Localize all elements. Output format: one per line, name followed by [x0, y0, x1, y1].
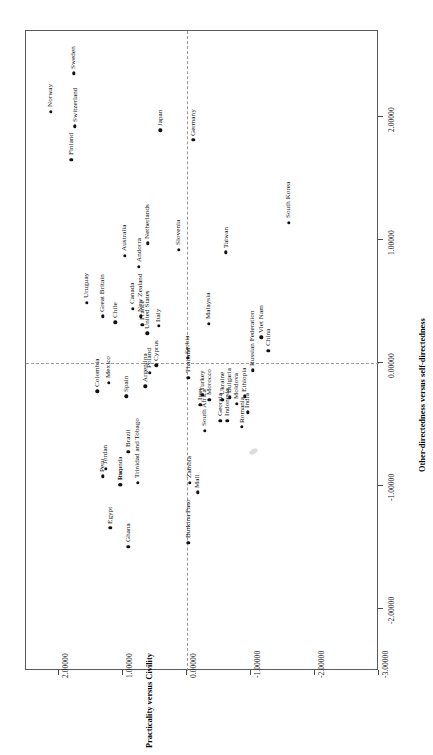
data-point-label: Brazil	[125, 430, 132, 448]
data-point	[126, 545, 129, 548]
data-point	[119, 483, 122, 486]
data-point-label: Netherlands	[144, 204, 151, 239]
y-axis-tick	[378, 116, 383, 117]
data-point-label: United States	[144, 290, 151, 329]
y-axis-tick-label: 1.00000	[387, 230, 396, 255]
reference-line-y-zero	[26, 363, 379, 364]
data-point-label: Mexico	[105, 356, 112, 378]
x-axis-tick	[314, 670, 315, 675]
data-point-label: Burkina Faso	[185, 500, 192, 539]
data-point-label: Uruguay	[83, 273, 90, 298]
data-point	[72, 72, 75, 75]
data-point-label: Germany	[190, 109, 197, 136]
data-point-label: Jordan	[102, 445, 109, 464]
x-axis-tick-label: 0.00000	[189, 653, 198, 678]
data-point	[224, 250, 227, 253]
y-axis-tick-label: -1.00000	[387, 474, 396, 501]
data-point-label: Finland	[68, 133, 75, 155]
x-axis-tick	[378, 670, 379, 675]
data-point	[104, 467, 107, 470]
data-point	[177, 248, 180, 251]
data-point-label: Chile	[112, 302, 119, 318]
data-point-label: Romania	[239, 397, 246, 423]
data-point	[251, 369, 254, 372]
data-point	[69, 158, 72, 161]
data-point	[114, 321, 117, 324]
data-point-label: Indonesia	[224, 388, 231, 416]
data-point-label: Australia	[121, 225, 128, 251]
y-axis-tick	[378, 608, 383, 609]
artifact-smudge	[248, 447, 258, 456]
data-point-label: Slovenia	[175, 220, 182, 245]
data-point	[208, 398, 211, 401]
data-point	[108, 526, 111, 529]
x-axis-tick-label: -3.00000	[381, 651, 390, 678]
data-point	[287, 221, 290, 224]
data-point-label: South Africa	[201, 390, 208, 427]
data-point-label: South Korea	[285, 182, 292, 218]
data-point	[187, 376, 190, 379]
data-point	[188, 481, 191, 484]
data-point-label: Mali	[194, 474, 201, 488]
data-point-label: Ghana	[125, 523, 132, 542]
data-point-label: Malaysia	[205, 293, 212, 319]
data-point	[137, 265, 140, 268]
data-point	[85, 301, 88, 304]
data-point	[219, 419, 222, 422]
y-axis-tick	[378, 239, 383, 240]
data-point	[157, 324, 160, 327]
data-point-label: Argentina	[142, 353, 149, 382]
data-point-label: Great Britain	[99, 274, 106, 312]
data-point	[101, 475, 104, 478]
data-point-label: Taiwan	[223, 227, 230, 248]
x-axis-tick-label: -1.00000	[253, 651, 262, 678]
data-point	[146, 332, 149, 335]
data-point-label: Switzerland	[72, 88, 79, 122]
data-point	[96, 390, 99, 393]
y-axis-tick	[378, 485, 383, 486]
data-point	[146, 242, 149, 245]
data-point-label: Andorra	[136, 238, 143, 262]
data-point-label: Ethiopia	[241, 367, 248, 391]
data-point	[73, 125, 76, 128]
data-point-label: Japan	[157, 109, 164, 125]
x-axis-tick	[186, 670, 187, 675]
data-point	[101, 314, 104, 317]
x-axis-tick	[250, 670, 251, 675]
data-point	[240, 425, 243, 428]
data-point-label: Russian Federation	[249, 310, 256, 365]
data-point-label: Georgia	[217, 393, 224, 416]
data-point	[136, 481, 139, 484]
data-point-label: Sweden	[70, 46, 77, 69]
x-axis-tick-label: 1.00000	[125, 653, 134, 678]
data-point	[131, 307, 134, 310]
data-point	[158, 128, 161, 131]
data-point	[207, 322, 210, 325]
data-point-label: Spain	[123, 375, 130, 391]
data-point	[246, 411, 249, 414]
data-point	[107, 381, 110, 384]
data-point	[203, 429, 206, 432]
data-point-label: Viet Nam	[258, 305, 265, 333]
scatter-plot-figure: SwedenNorwaySwitzerlandFinlandJapanGerma…	[0, 0, 433, 755]
data-point	[226, 419, 229, 422]
x-axis-tick-label: 2.00000	[61, 653, 70, 678]
data-point	[196, 491, 199, 494]
data-point	[49, 110, 52, 113]
data-point-label: Egypt	[107, 506, 114, 523]
x-axis-tick	[58, 670, 59, 675]
y-axis-tick-label: -2.00000	[387, 597, 396, 624]
data-point-label: Colombia	[94, 358, 101, 386]
data-point-label: Trinidad and Tobago	[134, 418, 141, 478]
data-point	[126, 450, 129, 453]
x-axis-title: Practicality versus Civility	[145, 653, 154, 748]
data-point	[144, 385, 147, 388]
y-axis-tick-label: 2.00000	[387, 107, 396, 132]
data-point	[267, 349, 270, 352]
data-point	[260, 335, 263, 338]
data-point-label: Italy	[155, 308, 162, 321]
data-point-label: Cyprus	[153, 340, 160, 361]
x-axis-tick-label: -2.00000	[317, 651, 326, 678]
y-axis-tick-label: 0.00000	[387, 353, 396, 378]
data-point	[155, 364, 158, 367]
